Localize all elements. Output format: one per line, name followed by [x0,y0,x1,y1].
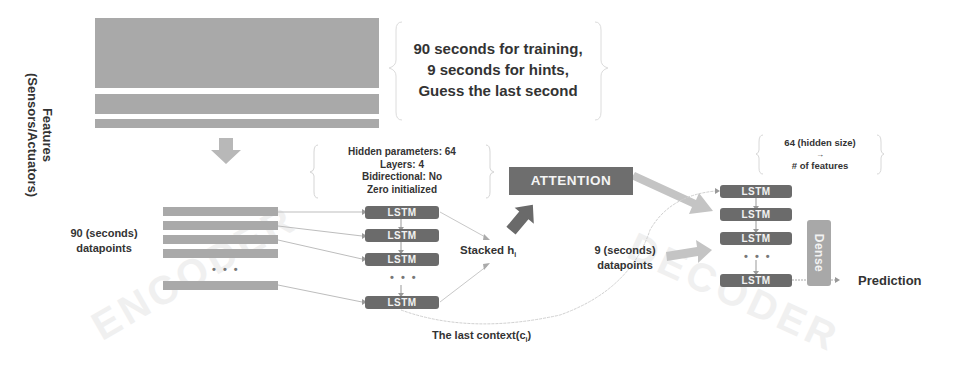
encoder-lstm-cell-2: LSTM [365,229,439,242]
config-bidirectional: Bidirectional: No [316,171,488,184]
task-note-line2: 9 seconds for hints, [398,59,598,80]
stacked-to-attention-arrow-icon [502,197,543,239]
dense-label: Dense [812,220,826,286]
decoder-hint-label-line2: datapoints [582,258,668,273]
encoder-lstm-ellipsis: • • • [390,271,418,283]
decoder-lstm-cell-2: LSTM [720,208,792,221]
encoder-config-note: Hidden parameters: 64 Layers: 4 Bidirect… [316,146,488,196]
encoder-input-label-line2: datapoints [64,241,144,256]
decoder-lstm-cell-last: LSTM [720,274,792,287]
task-description-note: 90 seconds for training, 9 seconds for h… [398,38,598,101]
hints-to-decoder-arrow-icon [666,240,712,263]
config-initialization: Zero initialized [316,184,488,197]
stacked-label-text: Stacked h [460,244,514,256]
decoder-hint-label: 9 (seconds) datapoints [582,243,668,273]
encoder-input-label: 90 (seconds) datapoints [64,226,144,256]
decoder-note-line1: 64 (hidden size) [762,137,878,149]
encoder-lstm-cell-1: LSTM [365,206,439,219]
stacked-label-subscript: i [514,251,516,258]
decoder-note-line2: # of features [762,160,878,172]
task-note-line3: Guess the last second [398,80,598,101]
config-layers: Layers: 4 [316,159,488,172]
attention-block: ATTENTION [509,167,633,195]
encoder-input-bar-3 [163,235,278,244]
task-note-line1: 90 seconds for training, [398,38,598,59]
decoder-lstm-cell-3: LSTM [720,232,792,245]
decoder-lstm-ellipsis: • • • [744,250,772,262]
decoder-note-arrow-icon: → [762,149,878,161]
encoder-input-label-line1: 90 (seconds) [64,226,144,241]
last-context-label: The last context(ci) [432,329,531,343]
stacked-hidden-states-label: Stacked hi [460,244,516,258]
encoder-input-bar-1 [163,207,278,216]
config-hidden-parameters: Hidden parameters: 64 [316,146,488,159]
decoder-hint-label-line1: 9 (seconds) [582,243,668,258]
encoder-lstm-cell-3: LSTM [365,253,439,266]
decoder-output-note: 64 (hidden size) → # of features [762,137,878,172]
prediction-label: Prediction [858,273,922,288]
encoder-input-bar-4 [163,249,278,258]
context-label-close: ) [527,329,531,341]
decoder-lstm-cell-1: LSTM [720,185,792,198]
encoder-input-bar-2 [163,221,278,230]
dense-layer-block: Dense [807,220,831,286]
encoder-input-ellipsis: • • • [212,263,240,275]
encoder-input-bar-last [163,281,278,290]
attention-label: ATTENTION [531,173,612,188]
encoder-lstm-cell-last: LSTM [365,296,439,309]
context-label-text: The last context(c [432,329,526,341]
down-arrow-icon [211,138,241,164]
